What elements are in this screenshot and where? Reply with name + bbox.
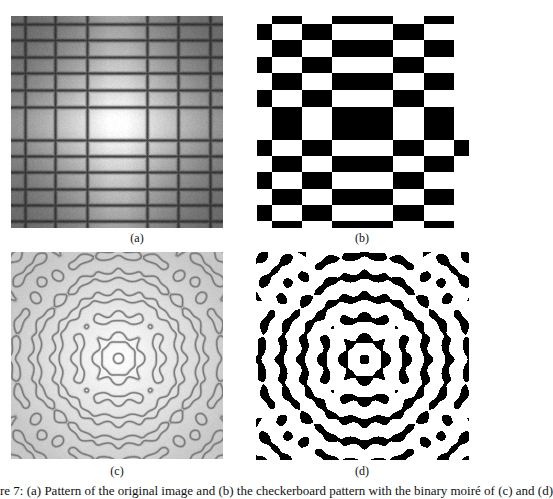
panel-d-binary-moire-image <box>256 252 469 460</box>
panel-c-label: (c) <box>97 464 137 478</box>
panel-b-checkerboard-image <box>257 16 469 228</box>
panel-a-beats-image <box>11 16 223 228</box>
panel-b-canvas <box>257 16 469 228</box>
panel-b-label: (b) <box>342 231 382 245</box>
panel-d-canvas <box>256 252 469 460</box>
figure-caption: re 7: (a) Pattern of the original image … <box>0 483 485 499</box>
panel-c-canvas <box>11 252 223 459</box>
panel-a-canvas <box>11 16 223 228</box>
panel-a-label: (a) <box>117 231 157 245</box>
panel-d-label: (d) <box>342 464 382 478</box>
panel-c-contour-image <box>11 252 223 459</box>
